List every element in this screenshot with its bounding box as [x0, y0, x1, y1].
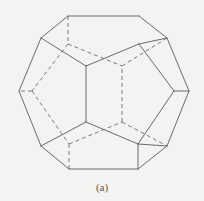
- dodecahedron-diagram: [0, 0, 204, 201]
- visible-edge: [139, 44, 174, 91]
- visible-edge: [138, 144, 167, 146]
- hidden-edge: [69, 122, 122, 144]
- visible-edge: [167, 91, 189, 146]
- figure-caption: (a): [0, 181, 204, 193]
- visible-edge: [41, 122, 86, 146]
- visible-edge: [138, 91, 174, 144]
- dodecahedron-figure: (a): [0, 0, 204, 201]
- visible-edge: [139, 38, 167, 44]
- visible-edge: [86, 122, 138, 144]
- visible-edge: [167, 38, 189, 91]
- visible-edge: [41, 146, 69, 169]
- visible-edge: [41, 16, 68, 38]
- visible-edge: [139, 16, 167, 38]
- visible-edges: [19, 16, 189, 169]
- visible-edge: [138, 146, 167, 169]
- visible-edge: [41, 38, 86, 66]
